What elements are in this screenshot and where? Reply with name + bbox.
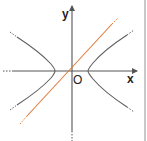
origin-label: O — [73, 73, 82, 87]
diagram-canvas: y x O — [0, 0, 147, 141]
y-axis-label: y — [62, 7, 69, 21]
x-axis-label: x — [127, 72, 134, 86]
panel-border — [144, 0, 146, 141]
hyperbola-diagram: y x O — [0, 0, 147, 141]
